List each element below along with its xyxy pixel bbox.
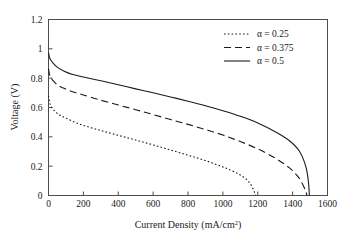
legend-label: α = 0.25 (257, 29, 289, 39)
x-axis-tick-labels: 02004006008001000120014001600 (46, 199, 337, 209)
y-tick-label: 0.8 (31, 74, 43, 84)
y-tick-label: 1 (38, 44, 43, 54)
x-axis-title: Current Density (mA/cm2) (135, 219, 242, 231)
y-axis-title: Voltage (V) (9, 84, 21, 131)
x-tick-label: 400 (111, 199, 126, 209)
x-tick-label: 1000 (213, 199, 232, 209)
data-curves (49, 53, 310, 196)
y-tick-label: 0.2 (31, 162, 43, 172)
x-tick-label: 800 (181, 199, 196, 209)
x-tick-label: 1400 (283, 199, 302, 209)
curve-solid (49, 53, 310, 196)
x-tick-label: 0 (46, 199, 51, 209)
x-tick-label: 200 (76, 199, 91, 209)
polarization-curve-chart: 02004006008001000120014001600 00.20.40.6… (0, 0, 353, 241)
y-axis-tick-labels: 00.20.40.60.811.2 (31, 15, 43, 201)
chart-legend: α = 0.25α = 0.375α = 0.5 (224, 29, 294, 66)
y-tick-label: 0.6 (31, 103, 43, 113)
x-tick-label: 600 (146, 199, 161, 209)
legend-label: α = 0.375 (257, 43, 294, 53)
y-tick-label: 0.4 (31, 132, 43, 142)
x-tick-label: 1200 (248, 199, 267, 209)
y-tick-label: 1.2 (31, 15, 43, 25)
curve-dashed (49, 69, 307, 196)
chart-figure: 02004006008001000120014001600 00.20.40.6… (0, 0, 353, 241)
legend-label: α = 0.5 (257, 56, 284, 66)
x-tick-label: 1600 (318, 199, 337, 209)
y-tick-label: 0 (38, 191, 43, 201)
